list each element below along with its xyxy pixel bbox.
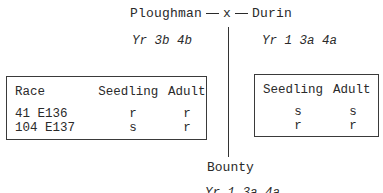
header-seedling: Seedling xyxy=(98,85,168,107)
cell-seedling: s xyxy=(98,121,168,135)
cross-symbol: x xyxy=(223,6,231,21)
parents-cross-line: PloughmanxDurin xyxy=(130,6,292,21)
cell-adult: r xyxy=(333,119,373,133)
header-seedling: Seedling xyxy=(263,83,333,105)
cell-adult: r xyxy=(168,121,206,135)
table-row: 41 E136 r r xyxy=(15,107,206,121)
offspring-genes: Yr 1 3a 4a xyxy=(205,186,280,193)
table-row: s s xyxy=(263,105,373,119)
right-resistance-table-box: Seedling Adult s s r r xyxy=(254,74,379,137)
table-header-row: Seedling Adult xyxy=(263,83,373,105)
table-row: 104 E137 s r xyxy=(15,121,206,135)
parent-right-genes: Yr 1 3a 4a xyxy=(262,34,337,48)
cell-seedling: s xyxy=(263,105,333,119)
header-adult: Adult xyxy=(168,85,206,107)
left-resistance-table: Race Seedling Adult 41 E136 r r 104 E137… xyxy=(15,85,206,135)
cell-race: 41 E136 xyxy=(15,107,98,121)
cell-adult: s xyxy=(333,105,373,119)
cell-seedling: r xyxy=(98,107,168,121)
table-row: r r xyxy=(263,119,373,133)
header-adult: Adult xyxy=(333,83,373,105)
cell-seedling: r xyxy=(263,119,333,133)
cell-race: 104 E137 xyxy=(15,121,98,135)
parent-left-genes: Yr 3b 4b xyxy=(132,34,192,48)
header-race: Race xyxy=(15,85,98,107)
parent-left-label: Ploughman xyxy=(130,6,202,21)
cross-dash-left xyxy=(206,13,219,14)
cell-adult: r xyxy=(168,107,206,121)
cross-dash-right xyxy=(235,13,248,14)
offspring-label: Bounty xyxy=(207,160,254,175)
right-resistance-table: Seedling Adult s s r r xyxy=(263,83,373,133)
table-header-row: Race Seedling Adult xyxy=(15,85,206,107)
pedigree-vertical-line xyxy=(228,27,229,157)
left-resistance-table-box: Race Seedling Adult 41 E136 r r 104 E137… xyxy=(6,76,207,140)
parent-right-label: Durin xyxy=(252,6,292,21)
